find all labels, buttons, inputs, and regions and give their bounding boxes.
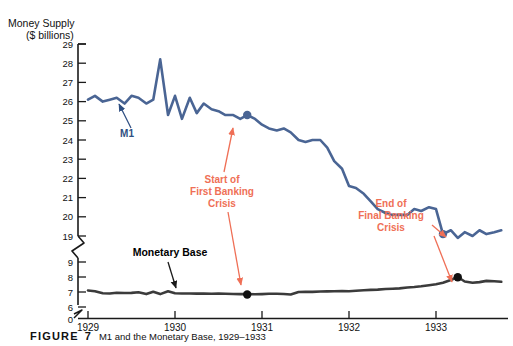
y-tick-0: 0 [68,314,73,325]
y-tick-label: 21 [62,192,73,203]
y-tick-label: 28 [62,58,73,69]
y-tick-6: 6 [68,302,86,313]
y-tick-7: 7 [68,287,86,298]
y-tick-24: 24 [62,135,86,146]
annotation-leader-line-up [224,128,233,172]
monetary-base-series-label: Monetary Base [133,246,208,258]
m1-callout-group: M1 [119,104,134,139]
event-marker-layer [243,111,462,299]
y-tick-8: 8 [68,272,86,283]
annotation-line-1: Start of [205,174,241,185]
y-tick-26: 26 [62,96,86,107]
chart-plot-area: 29 28 27 26 25 24 [0,0,513,346]
annotation-line-3: Crisis [208,198,236,209]
y-tick-label: 7 [68,287,73,298]
y-axis [72,44,86,305]
event-marker-end-final-banking-crisis-base [454,273,462,281]
m1-callout-leader-line [119,104,131,128]
event-marker-start-first-banking-crisis-base [243,290,251,298]
y-axis-lower-ticks: 9 8 7 6 0 [68,257,86,325]
annotation-line-2: First Banking [190,186,254,197]
y-tick-20: 20 [62,211,86,222]
series-line-m1 [88,59,501,238]
y-tick-label: 26 [62,96,73,107]
figure-caption-number: 7 [85,330,91,342]
y-tick-label: 0 [68,314,73,325]
y-tick-label: 27 [62,77,73,88]
y-tick-27: 27 [62,77,86,88]
y-tick-21: 21 [62,192,86,203]
annotation-start-of-first-banking-crisis: Start of First Banking Crisis [190,128,254,285]
y-tick-22: 22 [62,173,86,184]
y-axis-break-symbol [72,236,84,258]
figure-caption-label: FIGURE [30,330,79,342]
y-tick-label: 25 [62,115,73,126]
annotation-line-2: Final Banking [358,210,424,221]
m1-series-label: M1 [120,128,134,139]
y-tick-23: 23 [62,154,86,165]
y-tick-29: 29 [62,39,86,50]
annotation-line-1: End of [375,198,407,209]
y-tick-label: 29 [62,39,73,50]
y-axis-upper-ticks: 29 28 27 26 25 24 [62,39,86,242]
y-tick-28: 28 [62,58,86,69]
figure-root: Money Supply ($ billions) [0,0,513,346]
y-tick-label: 8 [68,272,73,283]
y-tick-label: 24 [62,135,73,146]
annotation-end-of-final-banking-crisis: End of Final Banking Crisis [358,198,452,282]
figure-caption: FIGURE7M1 and the Monetary Base, 1929–19… [30,330,500,342]
y-tick-9: 9 [68,257,86,268]
annotation-line-3: Crisis [377,222,405,233]
annotation-leader-line-down [228,212,241,285]
y-tick-label: 22 [62,173,73,184]
monetary-base-callout-leader-line [168,262,176,288]
event-marker-start-first-banking-crisis-m1 [243,111,251,119]
y-tick-label: 23 [62,154,73,165]
series-line-monetary-base [88,277,501,295]
y-tick-25: 25 [62,115,86,126]
y-tick-label: 9 [68,257,73,268]
y-axis-zero-break-symbol [74,310,82,318]
annotation-leader-line-down [434,236,452,282]
y-tick-label: 19 [62,231,73,242]
y-tick-label: 20 [62,211,73,222]
monetary-base-callout-group: Monetary Base [133,246,208,288]
y-tick-label: 6 [68,302,73,313]
y-tick-19: 19 [62,231,86,242]
figure-caption-text: M1 and the Monetary Base, 1929–1933 [99,331,266,342]
